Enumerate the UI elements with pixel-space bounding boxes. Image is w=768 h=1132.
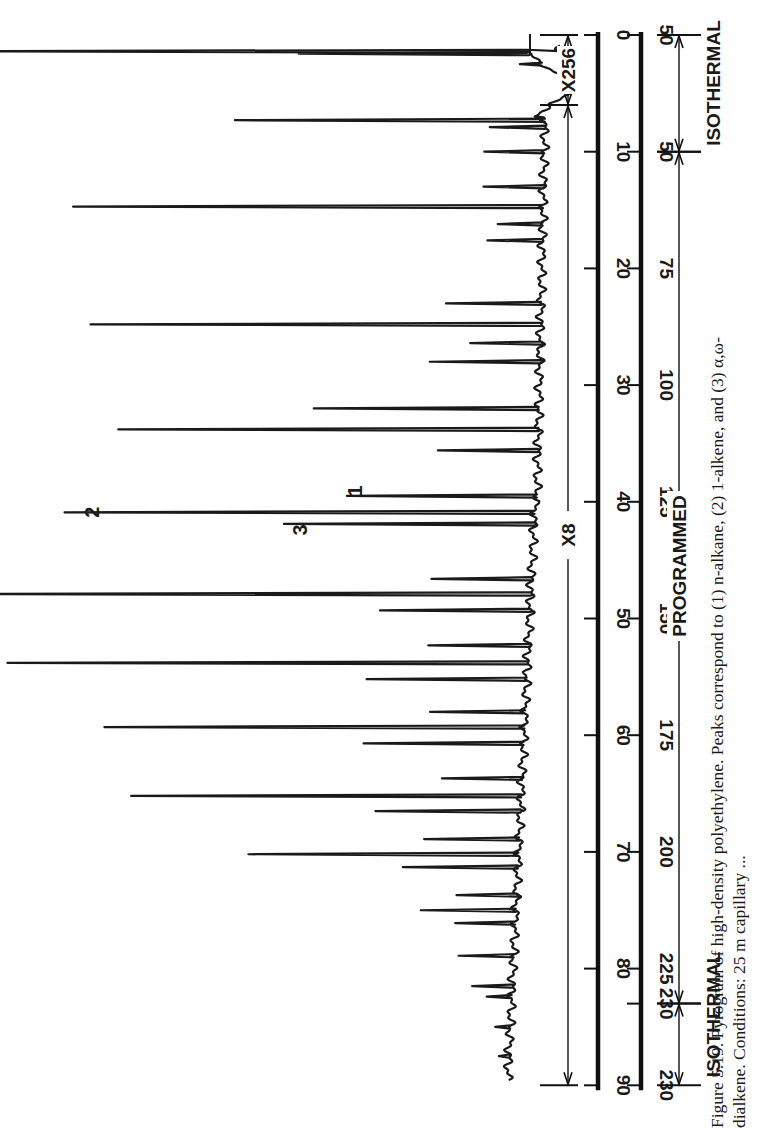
caption-line-1: Figure 5.19. Pyrogram of high-density po… <box>706 0 728 1132</box>
temperature-tick-label: 75 <box>656 258 677 280</box>
chromatogram-trace <box>0 34 573 1080</box>
pyrogram-chart: 0102030405060708090505075100125150175200… <box>0 0 768 1132</box>
temperature-tick-label: 175 <box>656 719 677 751</box>
programmed-label: PROGRAMMED <box>669 495 690 636</box>
peak-label-2: 2 <box>81 507 103 518</box>
figure-caption: Figure 5.19. Pyrogram of high-density po… <box>706 0 766 1132</box>
peak-label-3: 3 <box>289 524 311 535</box>
temperature-tick-label: 225 <box>656 953 677 985</box>
trace-path <box>0 46 573 1080</box>
attenuation-x256-label: X256 <box>558 48 579 92</box>
annotations: X256X8PROGRAMMEDISOTHERMALISOTHERMAL123 <box>81 20 724 1077</box>
temperature-tick-label: 100 <box>656 369 677 401</box>
temperature-tick-label: 200 <box>656 836 677 868</box>
attenuation-x8-label: X8 <box>558 524 579 547</box>
peak-label-1: 1 <box>344 485 366 496</box>
caption-line-2: dialkene. Conditions: 25 m capillary ... <box>728 0 750 1132</box>
